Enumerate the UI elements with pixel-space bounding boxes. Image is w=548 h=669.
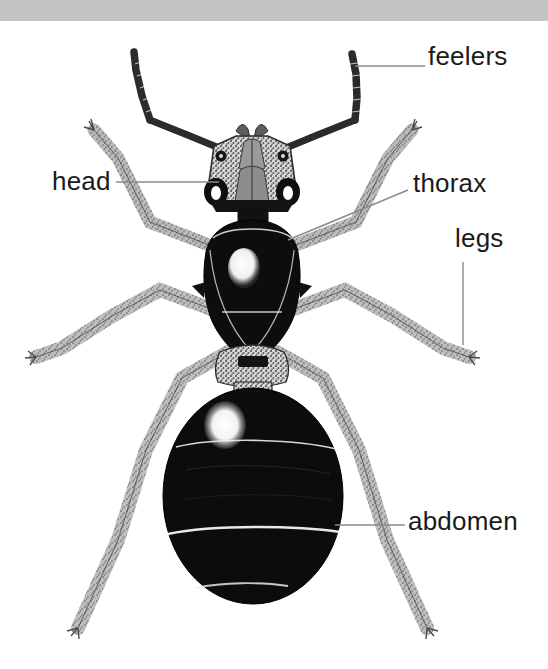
ant-head	[204, 124, 300, 212]
ant-thorax	[192, 220, 312, 364]
leg-middle-left	[25, 290, 214, 365]
leg-middle-right	[291, 290, 480, 365]
label-feelers: feelers	[428, 43, 507, 69]
antenna-left	[134, 52, 224, 150]
label-abdomen: abdomen	[408, 508, 518, 534]
leader-line-thorax	[288, 190, 408, 240]
label-head: head	[52, 168, 111, 194]
label-legs: legs	[455, 225, 504, 251]
ant-illustration	[0, 0, 548, 669]
ant-abdomen	[163, 388, 343, 604]
ant-anatomy-diagram-page: feelers head thorax legs abdomen	[0, 0, 548, 669]
antenna-right	[281, 54, 361, 150]
label-thorax: thorax	[413, 170, 486, 196]
